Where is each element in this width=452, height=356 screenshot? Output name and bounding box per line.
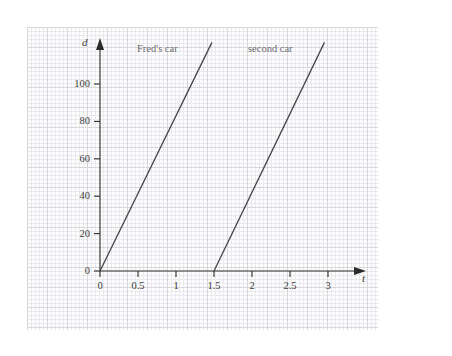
graph-figure: d t 0 20 40 60 80 100 0 0.5 1 1.5 2 2.5 … <box>0 0 452 356</box>
plot-area <box>0 0 452 356</box>
x-tick-label-3: 3 <box>314 280 342 291</box>
series-line-freds-car <box>100 43 212 271</box>
y-tick-label-40: 40 <box>58 190 90 201</box>
series-line-second-car <box>214 43 324 271</box>
series-label-second-car: second car <box>248 43 293 54</box>
y-axis-arrow-icon <box>96 38 104 50</box>
y-tick-label-0: 0 <box>58 265 90 276</box>
y-axis-label: d <box>82 36 88 48</box>
x-tick-label-1-5: 1.5 <box>200 280 228 291</box>
y-tick-label-20: 20 <box>58 228 90 239</box>
x-tick-label-2-5: 2.5 <box>276 280 304 291</box>
y-tick-label-100: 100 <box>58 78 90 89</box>
x-tick-label-0: 0 <box>86 280 114 291</box>
y-tick-label-80: 80 <box>58 115 90 126</box>
x-tick-label-0-5: 0.5 <box>124 280 152 291</box>
x-tick-label-1: 1 <box>162 280 190 291</box>
x-tick-label-2: 2 <box>238 280 266 291</box>
y-tick-label-60: 60 <box>58 153 90 164</box>
series-label-freds-car: Fred's car <box>137 43 178 54</box>
x-axis-label: t <box>362 272 365 284</box>
